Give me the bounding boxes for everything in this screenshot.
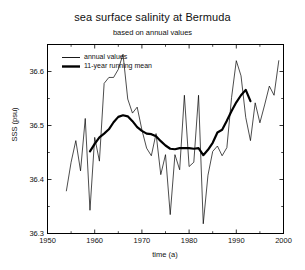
plot-frame [48, 45, 284, 234]
plot-area [0, 0, 305, 270]
chart-figure: sea surface salinity at Bermuda based on… [0, 0, 305, 270]
series-line-2 [90, 90, 250, 155]
